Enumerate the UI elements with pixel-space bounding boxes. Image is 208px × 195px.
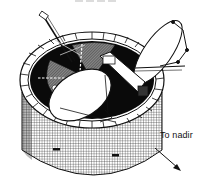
arrow-down-right-icon	[155, 148, 181, 171]
satellite-illustration	[0, 0, 208, 195]
satellite-diagram: To nadir	[0, 0, 208, 195]
sensor-port-right	[112, 154, 119, 157]
cut-title-fragment	[75, 0, 116, 2]
sensor-port-left	[53, 148, 60, 151]
nadir-label: To nadir	[160, 130, 193, 140]
